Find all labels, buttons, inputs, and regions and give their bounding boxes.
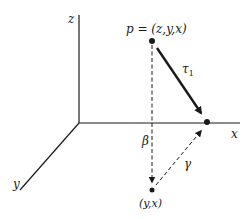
point-p-label: p = (z,y,x) bbox=[126, 22, 187, 36]
y-axis bbox=[20, 123, 79, 190]
beta-label: β bbox=[141, 134, 149, 148]
z-axis-label: z bbox=[67, 12, 75, 26]
gamma-label: γ bbox=[184, 157, 192, 171]
gamma-arrow bbox=[156, 131, 201, 185]
tau-arrow bbox=[157, 48, 201, 113]
tau-label: τ1 bbox=[182, 62, 194, 78]
point-on-x-axis bbox=[204, 119, 210, 125]
point-p bbox=[149, 38, 155, 44]
coordinate-projection-diagram: z x y p = (z,y,x) (y,x) τ1 β γ bbox=[0, 0, 251, 219]
y-axis-label: y bbox=[12, 177, 20, 191]
point-projection bbox=[150, 188, 155, 193]
x-axis-label: x bbox=[231, 127, 238, 141]
point-projection-label: (y,x) bbox=[139, 197, 162, 210]
